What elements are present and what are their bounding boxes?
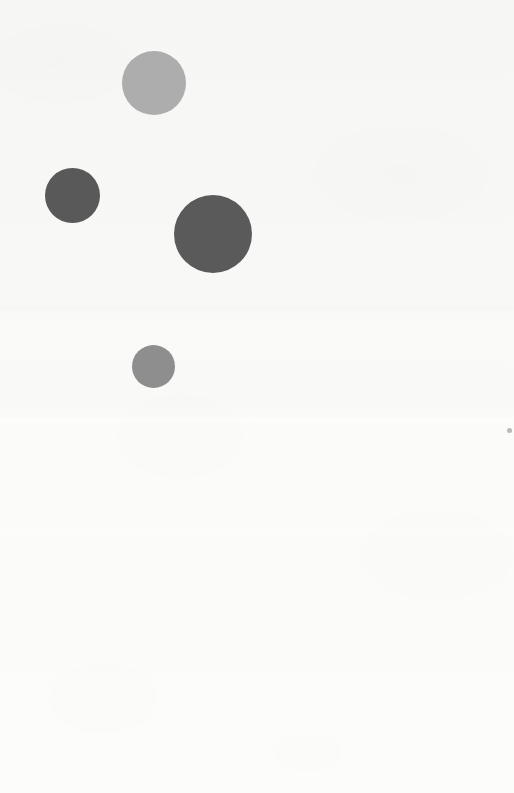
bubble-point-1 bbox=[122, 51, 186, 115]
paper-texture-overlay bbox=[0, 0, 514, 793]
scan-banding-overlay bbox=[0, 0, 514, 793]
figure-canvas bbox=[0, 0, 514, 793]
bubble-point-4 bbox=[132, 345, 175, 388]
bubble-point-3 bbox=[174, 195, 252, 273]
edge-speck-mark bbox=[507, 428, 512, 433]
bubble-point-2 bbox=[45, 168, 100, 223]
